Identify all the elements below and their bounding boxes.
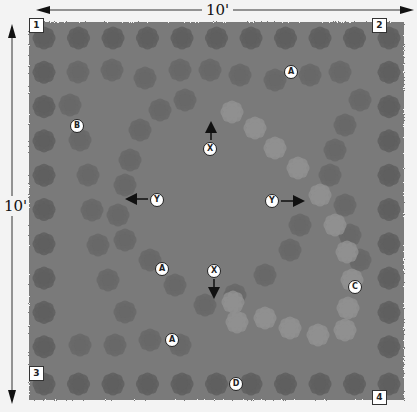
light-ring-plant	[286, 156, 309, 179]
corner-label-4: 4	[372, 390, 387, 405]
inner-ring-plant	[128, 118, 151, 141]
light-ring-plant	[335, 240, 358, 263]
border-plant	[274, 372, 297, 395]
light-ring-plant	[308, 183, 331, 206]
outer-ring-plant	[333, 113, 356, 136]
outer-ring-plant	[86, 233, 109, 256]
light-ring-plant	[243, 116, 266, 139]
outer-ring-plant	[198, 58, 221, 81]
marker-d: D	[229, 377, 243, 391]
border-plant	[239, 26, 262, 49]
corner-label-3: 3	[29, 366, 44, 381]
marker-a: A	[165, 333, 179, 347]
light-ring-plant	[221, 290, 244, 313]
border-plant	[32, 198, 55, 221]
border-plant	[343, 372, 366, 395]
outer-ring-plant	[333, 193, 356, 216]
light-ring-plant	[263, 136, 286, 159]
border-plant	[377, 95, 400, 118]
border-plant	[377, 267, 400, 290]
light-ring-plant	[323, 213, 346, 236]
outer-ring-plant	[100, 58, 123, 81]
border-plant	[32, 95, 55, 118]
border-plant	[136, 372, 159, 395]
marker-y: Y	[265, 194, 279, 208]
light-ring-plant	[220, 100, 243, 123]
garden-plan-diagram: 10' 10' 1234 AAABCDXXYY	[0, 0, 417, 412]
border-plant	[32, 335, 55, 358]
marker-a: A	[284, 65, 298, 79]
marker-x: X	[203, 142, 217, 156]
inner-ring-plant	[113, 173, 136, 196]
outer-ring-plant	[96, 268, 119, 291]
border-plant	[377, 232, 400, 255]
outer-ring-plant	[328, 60, 351, 83]
outer-ring-plant	[113, 300, 136, 323]
border-plant	[136, 26, 159, 49]
border-plant	[170, 26, 193, 49]
border-plant	[343, 26, 366, 49]
inner-ring-plant	[113, 228, 136, 251]
inner-ring-plant	[173, 88, 196, 111]
inner-ring-plant	[193, 293, 216, 316]
border-plant	[170, 372, 193, 395]
left-arrowhead-icon	[36, 6, 50, 14]
border-plant	[308, 372, 331, 395]
border-plant	[32, 232, 55, 255]
down-arrowhead-icon	[8, 390, 16, 404]
light-ring-plant	[333, 318, 356, 341]
border-plant	[32, 267, 55, 290]
border-plant	[205, 372, 228, 395]
outer-ring-plant	[66, 60, 89, 83]
border-plant	[101, 372, 124, 395]
border-plant	[274, 26, 297, 49]
light-ring-plant	[336, 296, 359, 319]
light-ring-plant	[278, 316, 301, 339]
marker-b: B	[70, 119, 84, 133]
right-arrowhead-icon	[400, 6, 414, 14]
border-plant	[377, 335, 400, 358]
outer-ring-plant	[318, 163, 341, 186]
width-dimension-label: 10'	[202, 2, 233, 18]
outer-ring-plant	[348, 88, 371, 111]
inner-ring-plant	[288, 213, 311, 236]
border-plant	[67, 26, 90, 49]
up-arrowhead-icon	[8, 24, 16, 38]
light-ring-plant	[225, 310, 248, 333]
corner-label-2: 2	[372, 18, 387, 33]
border-plant	[308, 26, 331, 49]
border-plant	[32, 164, 55, 187]
marker-y: Y	[150, 193, 164, 207]
border-plant	[377, 198, 400, 221]
border-plant	[32, 61, 55, 84]
border-plant	[67, 372, 90, 395]
outer-ring-plant	[76, 163, 99, 186]
border-plant	[32, 301, 55, 324]
outer-ring-plant	[228, 63, 251, 86]
inner-ring-plant	[163, 273, 186, 296]
border-plant	[205, 26, 228, 49]
outer-ring-plant	[80, 198, 103, 221]
outer-ring-plant	[168, 58, 191, 81]
marker-c: C	[348, 280, 362, 294]
inner-ring-plant	[253, 263, 276, 286]
border-plant	[377, 61, 400, 84]
border-plant	[377, 129, 400, 152]
outer-ring-plant	[68, 333, 91, 356]
outer-ring-plant	[58, 93, 81, 116]
light-ring-plant	[306, 323, 329, 346]
border-plant	[377, 301, 400, 324]
outer-ring-plant	[103, 333, 126, 356]
border-plant	[32, 129, 55, 152]
outer-ring-plant	[138, 328, 161, 351]
plan-canvas	[0, 0, 417, 412]
border-plant	[101, 26, 124, 49]
corner-label-1: 1	[29, 18, 44, 33]
outer-ring-plant	[133, 66, 156, 89]
light-ring-plant	[253, 306, 276, 329]
outer-ring-plant	[298, 63, 321, 86]
border-plant	[377, 164, 400, 187]
height-dimension-label: 10'	[4, 196, 27, 216]
marker-x: X	[207, 264, 221, 278]
outer-ring-plant	[323, 138, 346, 161]
